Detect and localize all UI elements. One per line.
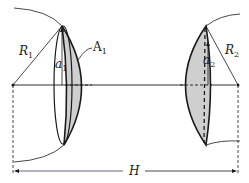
left-sphere-arc [14,8,62,26]
h-arrow-left [14,169,19,173]
right-cap-shaded [186,26,211,145]
label-h: H [128,164,140,178]
lens-diagram: R1 A1 a1 a2 R2 H [0,0,249,183]
label-a1-area: A1 [92,40,107,56]
left-sphere-arc-bottom [14,145,64,162]
a1-leader [78,48,92,60]
label-a2: a2 [203,53,215,69]
label-r2: R2 [224,43,239,59]
right-sphere-arc-bottom [206,141,240,145]
label-r1: R1 [18,44,33,60]
right-sphere-arc [206,14,240,26]
h-arrow-right [232,169,237,173]
